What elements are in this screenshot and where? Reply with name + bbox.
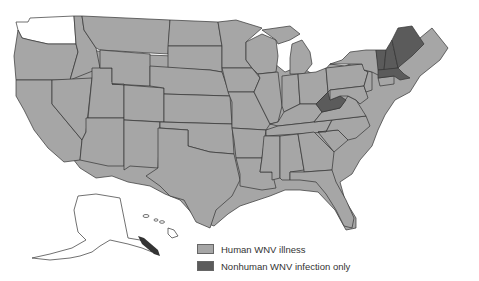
state-iowa [222, 68, 260, 92]
state-arizona [80, 118, 124, 166]
legend-swatch-human [197, 244, 214, 254]
us-map [0, 0, 479, 281]
legend-swatch-nonhuman [197, 261, 214, 271]
state-new-mexico [124, 120, 160, 170]
state-alaska [32, 194, 152, 260]
state-kansas [164, 94, 232, 124]
legend-item-nonhuman: Nonhuman WNV infection only [197, 259, 350, 273]
legend-item-human: Human WNV illness [197, 242, 350, 256]
state-north-dakota [168, 20, 222, 46]
state-arkansas [232, 128, 266, 158]
legend-label-human: Human WNV illness [221, 244, 305, 255]
legend-label-nonhuman: Nonhuman WNV infection only [221, 261, 350, 272]
state-hawaii [143, 215, 178, 239]
legend: Human WNV illness Nonhuman WNV infection… [197, 242, 350, 276]
